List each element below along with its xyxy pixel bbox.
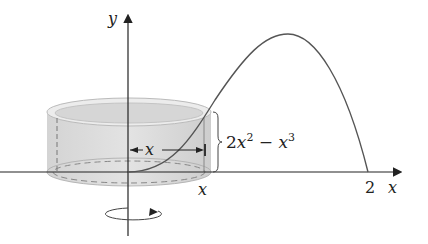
radius-label: x	[145, 140, 154, 159]
height-exp2: 3	[288, 131, 295, 144]
height-coef: 2	[226, 132, 237, 152]
y-axis-label: y	[107, 9, 118, 28]
two-tick-label: 2	[365, 178, 375, 197]
height-x1: x	[237, 132, 247, 152]
height-label: 2x2 − x3	[226, 131, 295, 152]
height-minus: −	[253, 132, 278, 152]
x-tick-label: x	[198, 180, 207, 199]
rotation-arrow-icon	[105, 208, 161, 220]
height-exp1: 2	[246, 131, 253, 144]
shell-method-diagram: y x x x 2 2x2 − x3	[0, 0, 428, 244]
x-axis-label: x	[388, 178, 397, 197]
height-brace	[213, 112, 222, 172]
height-x2: x	[278, 132, 288, 152]
